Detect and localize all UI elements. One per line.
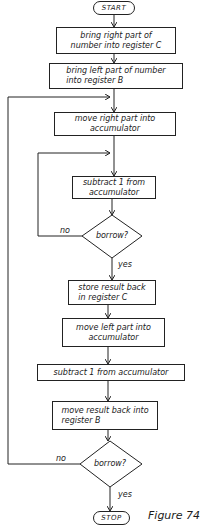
step-3-box: move right part into accumulator [54, 112, 176, 136]
decision-2-yes-label: yes [118, 490, 132, 499]
step-8-label: move result back into register B [61, 406, 148, 426]
step-1-box: bring right part of number into register… [56, 27, 176, 54]
step-7-box: subtract 1 from accumulator [37, 364, 185, 381]
start-terminal: START [93, 1, 135, 15]
stop-label: STOP [101, 514, 121, 522]
step-5-box: store result back in register C [68, 280, 156, 305]
step-3-label: move right part into accumulator [75, 114, 156, 134]
start-label: START [102, 4, 127, 12]
step-2-label: bring left part of number into register … [66, 66, 165, 86]
step-4-box: subtract 1 from accumulator [72, 176, 156, 199]
figure-caption: Figure 74 [148, 509, 200, 522]
step-7-label: subtract 1 from accumulator [54, 368, 169, 378]
step-1-label: bring right part of number into register… [71, 31, 162, 51]
step-4-label: subtract 1 from accumulator [83, 178, 145, 198]
stop-terminal: STOP [93, 511, 130, 525]
decision-2-no-label: no [56, 454, 66, 463]
step-5-label: store result back in register C [78, 283, 145, 303]
decision-2-label: borrow? [86, 459, 134, 469]
step-8-box: move result back into register B [52, 401, 158, 430]
decision-1-label: borrow? [88, 231, 136, 241]
step-2-box: bring left part of number into register … [49, 63, 183, 89]
step-6-box: move left part into accumulator [62, 318, 165, 347]
step-6-label: move left part into accumulator [76, 323, 151, 343]
decision-1-yes-label: yes [118, 260, 132, 269]
decision-1-no-label: no [60, 226, 70, 235]
